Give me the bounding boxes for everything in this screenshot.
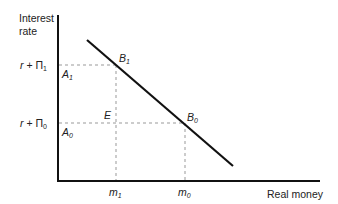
money-demand-line	[87, 40, 233, 166]
y-tick-r-pi0: r + Π0	[20, 117, 47, 130]
y-axis-label-line2: rate	[19, 25, 37, 37]
point-A0: A0	[61, 126, 73, 139]
x-axis-label: Real money	[267, 188, 324, 200]
y-tick-r-pi1: r + Π1	[20, 59, 47, 72]
x-tick-m0: m0	[178, 186, 191, 199]
money-demand-diagram: Interest rate Real money r + Π1 r + Π0 m…	[0, 0, 338, 204]
point-E: E	[104, 109, 112, 121]
point-B1: B1	[119, 52, 130, 65]
point-B0: B0	[187, 111, 198, 124]
y-axis-label-line1: Interest	[19, 12, 54, 24]
point-A1: A1	[61, 68, 73, 81]
x-tick-m1: m1	[109, 186, 122, 199]
